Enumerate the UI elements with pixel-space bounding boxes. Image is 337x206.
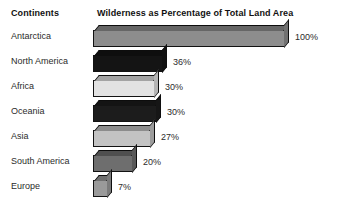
value-label: 36% <box>173 49 191 74</box>
value-label: 30% <box>165 74 183 99</box>
chart-row: Asia27% <box>0 124 337 149</box>
chart-row: Antarctica100% <box>0 24 337 49</box>
bar-body <box>93 180 108 197</box>
category-label: North America <box>11 49 68 74</box>
value-label: 30% <box>167 99 185 124</box>
category-label: South America <box>11 149 70 174</box>
value-label: 27% <box>161 124 179 149</box>
category-label: Africa <box>11 74 34 99</box>
chart-row: Oceania30% <box>0 99 337 124</box>
chart-rows: Antarctica100%North America36%Africa30%O… <box>0 24 337 199</box>
category-label: Antarctica <box>11 24 51 49</box>
value-label: 20% <box>143 149 161 174</box>
category-label: Asia <box>11 124 29 149</box>
chart-title: Wilderness as Percentage of Total Land A… <box>97 8 293 18</box>
chart-row: Europe7% <box>0 174 337 199</box>
category-label: Europe <box>11 174 40 199</box>
wilderness-bar-chart: Continents Wilderness as Percentage of T… <box>0 0 337 206</box>
bar-body <box>93 55 163 72</box>
bar-body <box>93 30 285 47</box>
chart-row: North America36% <box>0 49 337 74</box>
chart-row: Africa30% <box>0 74 337 99</box>
bar-body <box>93 130 151 147</box>
bar-body <box>93 80 155 97</box>
bar-body <box>93 155 133 172</box>
value-label: 100% <box>295 24 318 49</box>
chart-row: South America20% <box>0 149 337 174</box>
category-label: Oceania <box>11 99 45 124</box>
continents-column-header: Continents <box>11 8 59 18</box>
value-label: 7% <box>118 174 131 199</box>
bar-body <box>93 105 157 122</box>
